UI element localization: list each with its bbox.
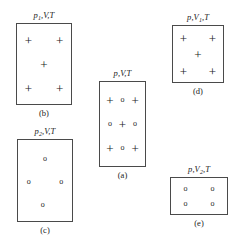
panel-e-state-label: p,V2,T (170, 164, 228, 177)
gas-particle-figure: p,V,T+o+o+o+o+(a)p1,V,T+++++(b)p2,V,Tooo… (0, 0, 239, 252)
panel-e: p,V2,Toooo(e) (0, 0, 239, 252)
particle-circle: o (184, 185, 188, 193)
particle-circle: o (210, 185, 214, 193)
pressure-symbol: p (188, 164, 192, 174)
volume-symbol-subscript: 2 (200, 169, 203, 175)
particle-circle: o (210, 200, 214, 208)
particle-circle: o (184, 200, 188, 208)
panel-e-container-box: oooo (170, 177, 228, 215)
panel-e-caption: (e) (170, 218, 228, 228)
volume-symbol: V2 (195, 164, 203, 174)
temperature-symbol: T (205, 164, 210, 174)
